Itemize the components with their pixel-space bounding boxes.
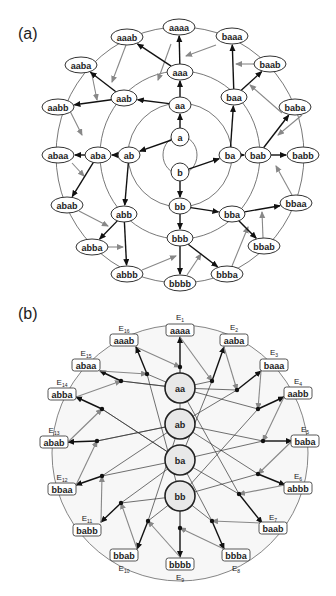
junction-dot (100, 474, 104, 478)
center-node-label: aa (175, 384, 186, 394)
node-label: bab (250, 151, 267, 161)
node-label: bbba (216, 270, 238, 280)
diagram-a-graph: abaaabbabbaaaaababaabbbaababbbabbbaaaaaa… (42, 19, 319, 291)
gray-arrow (112, 45, 126, 82)
edge-b-ba (189, 159, 220, 169)
edge-box-E1: aaaaE1 (166, 313, 194, 336)
node-bbbb: bbbb (164, 275, 196, 291)
junction-dot (119, 501, 123, 505)
node-label: aaba (71, 61, 93, 71)
edge-index-label: E4 (294, 377, 302, 387)
edge-bbb-bbba (188, 244, 217, 266)
edge-index-label: E14 (57, 378, 68, 388)
gray-arrow (79, 211, 108, 226)
junction-dot (95, 439, 99, 443)
junction-dot (178, 365, 182, 369)
node-abab: abab (51, 197, 83, 213)
node-label: bbb (172, 234, 189, 244)
edge-box-label: bbbb (169, 560, 191, 570)
edge-box-label: baab (262, 524, 284, 534)
edge-box-label: baba (294, 437, 316, 447)
edge-box-label: bbab (113, 551, 135, 561)
node-baab: baab (254, 56, 286, 72)
center-node-aa: aa (165, 373, 195, 403)
center-node-label: bb (175, 492, 186, 502)
node-bab: bab (245, 147, 271, 163)
panel-label-a: (a) (18, 25, 38, 42)
junction-dot (237, 492, 241, 496)
de-bruijn-figure: (a) (b) abaaabbabbaaaaababaabbbaababbbab… (0, 0, 336, 596)
node-label: baaa (222, 32, 244, 42)
edge-box-label: aaab (114, 336, 135, 346)
node-bbba: bbba (211, 266, 243, 282)
center-node-ab: ab (165, 409, 195, 439)
edge-box-E14: abbaE14 (48, 378, 76, 400)
node-label: baba (284, 103, 306, 113)
edge-box-E15: abaaE15 (72, 349, 100, 371)
gray-arrow (250, 85, 282, 113)
edge-box-label: bbba (225, 551, 247, 561)
node-label: baab (259, 60, 281, 70)
node-label: aab (116, 94, 132, 104)
edge-box-E3: baaaE3 (260, 348, 288, 371)
edge-box-label: abba (51, 390, 73, 400)
edge-aab-aabb (74, 100, 111, 105)
node-label: abab (56, 201, 78, 211)
edge-ab-abb (125, 163, 129, 205)
node-b: b (171, 163, 189, 181)
node-label: bbbb (169, 279, 191, 289)
node-label: ba (225, 151, 236, 161)
node-label: babb (292, 151, 314, 161)
node-ba: ba (219, 147, 241, 163)
edge-index-label: E3 (270, 348, 278, 358)
gray-arrow (276, 166, 292, 195)
edge-index-label: E5 (301, 425, 309, 435)
gray-arrow (262, 212, 263, 238)
node-baaa: baaa (216, 28, 248, 44)
edge-box-label: babb (76, 526, 98, 536)
node-label: aaab (117, 33, 138, 43)
node-aabb: aabb (42, 99, 74, 115)
node-bb: bb (169, 198, 191, 214)
edge-box-label: abab (43, 438, 65, 448)
edge-a-ab (140, 140, 172, 151)
node-label: abbb (116, 270, 138, 280)
junction-dot (261, 439, 265, 443)
edge-bab-baba (264, 115, 289, 148)
edge-box-E16: aaabE16 (110, 324, 138, 346)
node-aaba: aaba (65, 57, 97, 73)
node-aa: aa (169, 97, 191, 113)
node-label: aabb (47, 103, 69, 113)
node-label: aba (90, 151, 107, 161)
node-label: aaa (172, 68, 188, 78)
junction-dot (178, 526, 182, 530)
panel-label-b: (b) (18, 305, 38, 322)
node-ab: ab (118, 147, 140, 163)
junction-dot (256, 472, 260, 476)
junction-dot (256, 407, 260, 411)
gray-arrow (187, 254, 201, 275)
center-node-bb: bb (165, 481, 195, 511)
gray-arrow (70, 111, 82, 135)
gray-arrow (142, 256, 176, 270)
junction-dot (210, 379, 214, 383)
node-label: aa (175, 101, 186, 111)
junction-dot (100, 407, 104, 411)
node-baa: baa (221, 89, 247, 105)
edge-arrow-black (68, 441, 97, 442)
edge-baa-baaa (232, 45, 233, 89)
node-babb: babb (287, 147, 319, 163)
center-node-ba: ba (165, 445, 195, 475)
node-aab: aab (111, 90, 137, 106)
node-aaa: aaa (167, 64, 193, 80)
edge-box-label: aaba (224, 336, 246, 346)
node-label: baa (226, 93, 243, 103)
node-label: abaa (48, 151, 70, 161)
edge-index-label: E16 (119, 324, 130, 334)
edge-abb-abbb (124, 222, 126, 265)
node-abaa: abaa (42, 147, 74, 163)
node-label: ab (124, 151, 135, 161)
edge-bba-bbab (239, 221, 256, 238)
gray-arrow (92, 75, 97, 100)
node-bbab: bbab (248, 238, 280, 254)
